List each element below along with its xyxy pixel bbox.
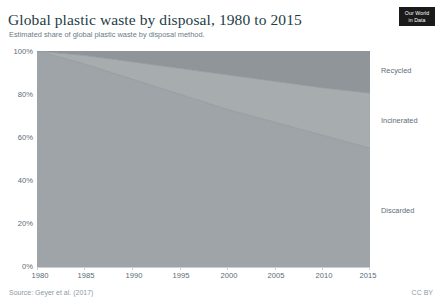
x-tickmark-2015 [369,267,370,270]
x-tick-label-2010: 2010 [316,271,333,280]
x-axis-line [37,267,370,268]
x-tick-label-2005: 2005 [268,271,285,280]
x-tickmark-1980 [37,267,38,270]
stacked-area-svg [37,51,370,267]
license-note[interactable]: CC BY [412,289,433,296]
y-tick-label-40: 40% [0,176,33,185]
x-tickmark-2010 [322,267,323,270]
x-tick-label-1995: 1995 [173,271,190,280]
y-tick-label-0: 0% [0,262,33,271]
y-tick-label-80: 80% [0,90,33,99]
series-label-discarded[interactable]: Discarded [381,206,414,215]
source-note[interactable]: Source: Geyer et al. (2017) [9,289,93,296]
chart-subtitle: Estimated share of global plastic waste … [9,30,205,39]
x-tickmark-1985 [84,267,85,270]
owid-logo-line-2: in Data [399,17,435,24]
series-label-recycled[interactable]: Recycled [381,66,411,75]
plot-area [37,51,370,267]
chart-root: Global plastic waste by disposal, 1980 t… [0,0,441,305]
y-tick-label-60: 60% [0,133,33,142]
x-tick-label-2015: 2015 [360,271,377,280]
owid-logo[interactable]: Our World in Data [399,7,435,26]
y-tick-label-100: 100% [0,47,33,56]
x-tickmark-2005 [275,267,276,270]
y-tick-label-20: 20% [0,219,33,228]
x-tick-label-1980: 1980 [32,271,49,280]
x-tickmark-1995 [180,267,181,270]
page-title: Global plastic waste by disposal, 1980 t… [8,11,302,29]
x-tickmark-2000 [227,267,228,270]
x-tick-label-1985: 1985 [78,271,95,280]
x-tickmark-1990 [132,267,133,270]
series-label-incinerated[interactable]: Incinerated [381,116,418,125]
x-tick-label-2000: 2000 [221,271,238,280]
x-tick-label-1990: 1990 [126,271,143,280]
